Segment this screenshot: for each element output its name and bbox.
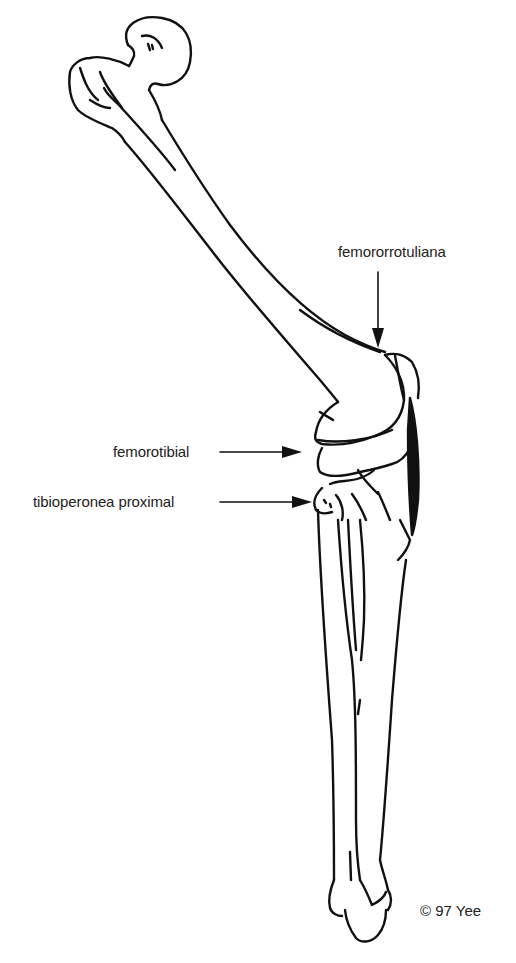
- tibia-proximal: [318, 448, 410, 560]
- label-tibioperonea-proximal: tibioperonea proximal: [33, 493, 174, 510]
- label-femorotibial: femorotibial: [113, 443, 189, 460]
- knee-bones-illustration: femororrotuliana femorotibial tibioperon…: [0, 0, 516, 963]
- femur-proximal: [69, 57, 162, 142]
- femoral-head: [126, 17, 191, 90]
- leg-shafts: [318, 510, 406, 890]
- label-femororrotuliana: femororrotuliana: [338, 243, 446, 260]
- bone-drawing: [0, 0, 516, 963]
- femur-condyle: [315, 355, 404, 445]
- copyright-notice: © 97 Yee: [420, 902, 481, 919]
